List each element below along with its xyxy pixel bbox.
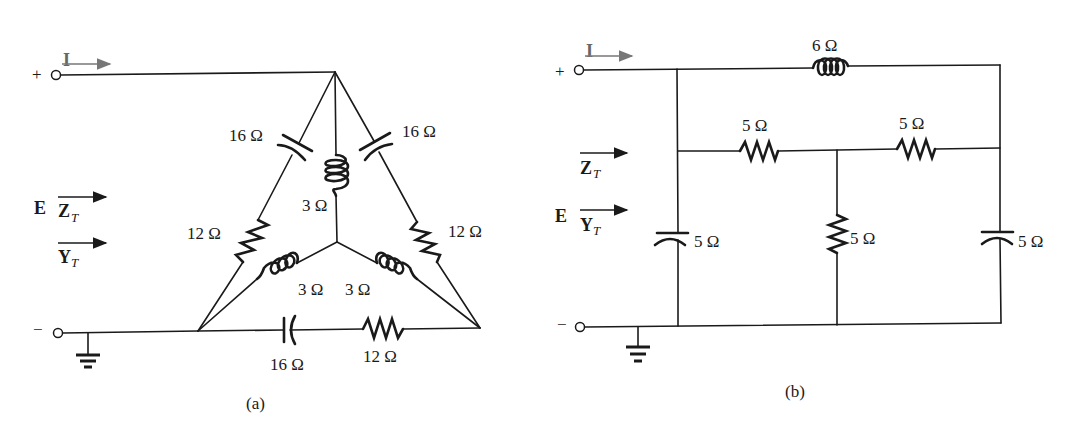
right-vertical-wire-lower — [1000, 239, 1001, 323]
impedance-subscript: T — [593, 166, 601, 181]
inductor-icon — [257, 253, 298, 279]
admittance-label: Y — [58, 247, 71, 267]
current-label: I — [586, 41, 593, 61]
delta-bottom-capacitor-label: 16 Ω — [270, 355, 304, 374]
top-wire — [61, 72, 335, 75]
caption-a: (a) — [246, 394, 265, 413]
resistor-icon — [411, 222, 440, 262]
panel-a: + − I E Z T Y T — [32, 50, 482, 413]
wye-top-inductor-label: 3 Ω — [302, 196, 327, 215]
resistor-icon — [829, 215, 846, 253]
top-inductor-label: 6 Ω — [812, 36, 837, 55]
delta-left-capacitor-label: 16 Ω — [229, 126, 263, 145]
middle-wire-3 — [935, 148, 1000, 149]
plus-terminal-label: + — [32, 65, 42, 84]
right-capacitor-label: 5 Ω — [1018, 232, 1043, 251]
caption-b: (b) — [785, 382, 805, 401]
delta-right-capacitor-label: 16 Ω — [402, 122, 436, 141]
wye-network: 3 Ω 3 Ω 3 Ω — [198, 72, 480, 331]
inductor-icon — [326, 155, 349, 196]
center-resistor-label: 5 Ω — [850, 229, 875, 248]
capacitor-icon — [278, 135, 312, 160]
wye-right-inductor-label: 3 Ω — [345, 280, 370, 299]
impedance-label: Z — [58, 201, 70, 221]
delta-left-resistor-label: 12 Ω — [187, 224, 221, 243]
source-label: E — [34, 198, 46, 218]
bottom-wire — [63, 331, 198, 333]
middle-left-resistor-label: 5 Ω — [742, 116, 767, 135]
plus-terminal-icon — [52, 71, 61, 80]
wye-left-inductor-label: 3 Ω — [298, 280, 323, 299]
admittance-subscript: T — [593, 223, 601, 238]
resistor-icon — [363, 319, 403, 338]
top-wire — [584, 68, 813, 70]
source-label: E — [555, 206, 567, 226]
capacitor-icon — [982, 232, 1013, 244]
delta-right-resistor-label: 12 Ω — [448, 222, 482, 241]
admittance-label: Y — [580, 215, 593, 235]
delta-bottom-branch: 16 Ω 12 Ω — [198, 316, 480, 374]
minus-terminal-label: − — [33, 320, 43, 339]
ground-icon — [626, 327, 650, 361]
resistor-icon — [236, 220, 268, 262]
inductor-icon — [813, 59, 848, 76]
ground-icon — [76, 333, 100, 367]
bottom-wire — [585, 323, 1001, 327]
circuit-figure: + − I E Z T Y T — [0, 0, 1088, 432]
resistor-icon — [740, 142, 778, 160]
plus-terminal-icon — [575, 66, 584, 75]
current-label: I — [63, 50, 70, 70]
minus-terminal-label: − — [557, 315, 567, 334]
capacitor-icon — [360, 133, 392, 160]
left-capacitor-label: 5 Ω — [694, 232, 719, 251]
inductor-icon — [376, 253, 417, 279]
top-wire-right — [848, 65, 1000, 66]
middle-right-resistor-label: 5 Ω — [899, 114, 924, 133]
plus-terminal-label: + — [555, 62, 565, 81]
delta-bottom-resistor-label: 12 Ω — [363, 347, 397, 366]
capacitor-icon — [655, 233, 688, 245]
minus-terminal-icon — [54, 329, 63, 338]
panel-b: + − I E Z T Y T 6 Ω 5 Ω 5 Ω — [555, 36, 1043, 401]
minus-terminal-icon — [576, 323, 585, 332]
admittance-subscript: T — [71, 255, 79, 270]
resistor-icon — [897, 140, 935, 158]
impedance-label: Z — [580, 158, 592, 178]
impedance-subscript: T — [71, 210, 79, 225]
